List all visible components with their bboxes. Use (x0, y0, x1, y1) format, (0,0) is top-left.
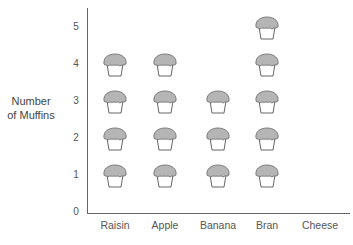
muffin-icon (253, 52, 281, 78)
muffin-icon (151, 89, 179, 115)
muffin-icon (101, 52, 129, 78)
y-axis-label-line-2: of Muffins (0, 108, 62, 122)
y-tick-label: 4 (70, 58, 82, 69)
muffin-icon (253, 15, 281, 41)
y-tick-label: 3 (70, 95, 82, 106)
muffin-icon (253, 126, 281, 152)
x-tick-label: Apple (140, 219, 190, 231)
muffin-icon (204, 163, 232, 189)
muffin-icon (151, 52, 179, 78)
x-tick-label: Bran (242, 219, 292, 231)
x-tick-label: Banana (193, 219, 243, 231)
muffin-icon (253, 163, 281, 189)
muffin-icon (151, 163, 179, 189)
y-axis-line (87, 8, 88, 214)
muffin-icon (204, 89, 232, 115)
muffin-icon (204, 126, 232, 152)
y-tick-label: 5 (70, 21, 82, 32)
muffin-icon (151, 126, 179, 152)
muffin-icon (253, 89, 281, 115)
muffin-icon (101, 163, 129, 189)
y-tick-label: 0 (70, 206, 82, 217)
x-axis-line (87, 213, 350, 214)
y-tick-label: 2 (70, 132, 82, 143)
muffin-icon (101, 126, 129, 152)
muffin-icon (101, 89, 129, 115)
x-tick-label: Cheese (295, 219, 345, 231)
y-axis-label-line-1: Number (0, 94, 62, 108)
y-axis-label: Number of Muffins (0, 94, 62, 122)
x-tick-label: Raisin (90, 219, 140, 231)
y-tick-label: 1 (70, 169, 82, 180)
